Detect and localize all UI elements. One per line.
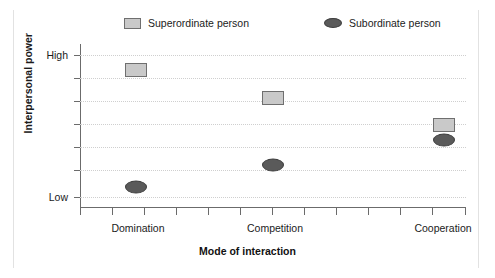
y-tick-label-high: High bbox=[46, 50, 68, 61]
x-axis-tick bbox=[144, 208, 145, 215]
gridline bbox=[80, 197, 466, 198]
gridline bbox=[80, 124, 466, 125]
x-axis-tick bbox=[336, 208, 337, 215]
legend-label-subordinate: Subordinate person bbox=[349, 18, 441, 29]
chart-figure: Superordinate person Subordinate person … bbox=[0, 0, 495, 278]
x-tick-label-cooperation: Cooperation bbox=[414, 223, 471, 234]
x-axis-tick bbox=[112, 208, 113, 215]
ellipse-marker-icon bbox=[324, 18, 342, 28]
x-axis-tick bbox=[80, 208, 81, 215]
x-axis-tick bbox=[208, 208, 209, 215]
gridline bbox=[80, 147, 466, 148]
x-axis-tick bbox=[400, 208, 401, 215]
legend-item-subordinate: Subordinate person bbox=[324, 18, 441, 29]
y-axis-title: Interpersonal power bbox=[23, 23, 34, 143]
x-axis-tick bbox=[304, 208, 305, 215]
x-axis-tick bbox=[176, 208, 177, 215]
x-tick-label-domination: Domination bbox=[111, 223, 164, 234]
x-tick-label-competition: Competition bbox=[247, 223, 303, 234]
legend-label-superordinate: Superordinate person bbox=[148, 18, 249, 29]
x-axis-tick bbox=[465, 208, 466, 215]
x-axis-tick bbox=[368, 208, 369, 215]
x-axis-tick bbox=[272, 208, 273, 215]
gridline bbox=[80, 78, 466, 79]
left-border-rule bbox=[13, 10, 14, 268]
data-point-subordinate-domination bbox=[125, 181, 147, 194]
data-point-subordinate-cooperation bbox=[433, 134, 455, 147]
x-axis-tick bbox=[432, 208, 433, 215]
gridline bbox=[80, 55, 466, 56]
x-axis-line bbox=[80, 207, 466, 208]
square-marker-icon bbox=[124, 18, 141, 29]
y-tick-label-low: Low bbox=[49, 192, 68, 203]
data-point-superordinate-competition bbox=[262, 91, 284, 105]
data-point-subordinate-competition bbox=[262, 159, 284, 172]
plot-area bbox=[80, 44, 466, 207]
chart-legend: Superordinate person Subordinate person bbox=[0, 18, 495, 38]
right-border-rule bbox=[478, 10, 479, 268]
data-point-superordinate-cooperation bbox=[433, 118, 455, 132]
x-axis-title: Mode of interaction bbox=[0, 246, 495, 257]
x-axis-tick bbox=[240, 208, 241, 215]
data-point-superordinate-domination bbox=[125, 63, 147, 77]
legend-item-superordinate: Superordinate person bbox=[124, 18, 249, 29]
